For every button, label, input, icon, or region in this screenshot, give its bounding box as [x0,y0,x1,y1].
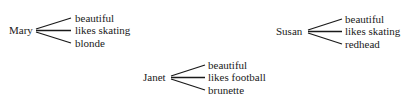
attribute-label: beautiful [75,12,114,24]
attribute-label: beautiful [208,59,247,71]
person-name-susan: Susan [276,25,302,37]
attribute-label: blonde [75,37,105,49]
attribute-label: likes skating [75,24,130,36]
attribute-label: likes football [208,71,266,83]
attribute-label: brunette [208,84,244,96]
person-name-janet: Janet [143,71,166,83]
person-name-mary: Mary [9,24,33,36]
attribute-label: beautiful [345,13,384,25]
attribute-label: redhead [345,38,380,50]
attribute-label: likes skating [345,25,400,37]
